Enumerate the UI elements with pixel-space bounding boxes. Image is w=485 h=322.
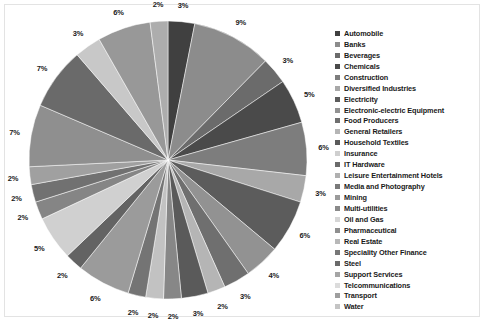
legend-swatch-icon	[335, 184, 340, 189]
pie-slice-percentage-label: 2%	[168, 311, 178, 320]
legend-item-label: Support Services	[344, 270, 402, 279]
legend-swatch-icon	[335, 86, 340, 91]
legend-item[interactable]: Water	[335, 301, 479, 312]
legend-swatch-icon	[335, 75, 340, 80]
pie-slice-percentage-label: 7%	[37, 63, 47, 72]
legend-swatch-icon	[335, 42, 340, 47]
legend-item[interactable]: Mining	[335, 192, 479, 203]
legend-item[interactable]: Insurance	[335, 148, 479, 159]
legend-item[interactable]: Diversified Industries	[335, 83, 479, 94]
legend-swatch-icon	[335, 195, 340, 200]
pie-slice-percentage-label: 3%	[240, 291, 250, 300]
legend-item-label: Telcommunications	[344, 281, 410, 290]
pie-slice-percentage-label: 5%	[34, 244, 44, 253]
legend-item[interactable]: Real Estate	[335, 236, 479, 247]
legend-item[interactable]: Construction	[335, 72, 479, 83]
legend-item-label: Household Textiles	[344, 138, 409, 147]
legend-item-label: Electronic-electric Equipment	[344, 106, 444, 115]
legend-item-label: Steel	[344, 259, 361, 268]
pie-slice-percentage-label: 9%	[236, 18, 246, 27]
legend-item[interactable]: General Retailers	[335, 126, 479, 137]
pie-slice-percentage-label: 2%	[153, 0, 163, 9]
legend-item[interactable]: Steel	[335, 258, 479, 269]
legend-item-label: Construction	[344, 73, 388, 82]
legend-swatch-icon	[335, 140, 340, 145]
legend-swatch-icon	[335, 206, 340, 211]
legend-item[interactable]: IT Hardware	[335, 159, 479, 170]
legend-item-label: Real Estate	[344, 237, 382, 246]
legend-item-label: Chemicals	[344, 62, 380, 71]
legend-item-label: Diversified Industries	[344, 84, 416, 93]
pie-slice-percentage-label: 6%	[90, 294, 100, 303]
pie-slice-percentage-label: 6%	[113, 8, 123, 17]
legend-swatch-icon	[335, 129, 340, 134]
legend-item-label: Banks	[344, 40, 365, 49]
legend-item-label: Speciality Other Finance	[344, 248, 427, 257]
pie-slice-percentage-label: 3%	[193, 309, 203, 318]
legend-swatch-icon	[335, 272, 340, 277]
legend-item-label: Mining	[344, 193, 367, 202]
legend-item[interactable]: Support Services	[335, 269, 479, 280]
legend-swatch-icon	[335, 64, 340, 69]
pie-slice-percentage-label: 3%	[178, 0, 188, 9]
legend-item-label: Pharmaceutical	[344, 226, 397, 235]
legend-item[interactable]: Media and Photography	[335, 181, 479, 192]
legend-item-label: Transport	[344, 291, 377, 300]
legend-item[interactable]: Banks	[335, 39, 479, 50]
legend-swatch-icon	[335, 228, 340, 233]
legend-swatch-icon	[335, 97, 340, 102]
legend-item-label: Automobile	[344, 29, 383, 38]
legend-item-label: Water	[344, 302, 364, 311]
legend-item-label: Insurance	[344, 149, 378, 158]
pie-slice-percentage-label: 6%	[318, 143, 328, 152]
pie-slice-percentage-label: 2%	[148, 311, 158, 320]
pie-slice-percentage-label: 6%	[300, 231, 310, 240]
legend-item[interactable]: Automobile	[335, 28, 479, 39]
legend-item[interactable]: Speciality Other Finance	[335, 247, 479, 258]
chart-frame: 3%9%3%5%6%3%6%4%3%2%3%2%2%2%6%2%5%2%2%2%…	[4, 4, 480, 317]
pie-slice-percentage-label: 3%	[282, 55, 292, 64]
legend-item-label: IT Hardware	[344, 160, 385, 169]
legend-item[interactable]: Electronic-electric Equipment	[335, 105, 479, 116]
legend-swatch-icon	[335, 173, 340, 178]
legend-item[interactable]: Household Textiles	[335, 137, 479, 148]
pie-chart-plot-area: 3%9%3%5%6%3%6%4%3%2%3%2%2%2%6%2%5%2%2%2%…	[5, 5, 330, 316]
pie-slice-percentage-label: 2%	[128, 308, 138, 317]
legend-swatch-icon	[335, 53, 340, 58]
legend-swatch-icon	[335, 304, 340, 309]
legend-item-label: Leisure Entertainment Hotels	[344, 171, 443, 180]
legend-swatch-icon	[335, 293, 340, 298]
pie-slice-percentage-label: 3%	[315, 188, 325, 197]
legend-item[interactable]: Telcommunications	[335, 280, 479, 291]
legend-item[interactable]: Electricity	[335, 94, 479, 105]
legend-item-label: Oil and Gas	[344, 215, 383, 224]
pie-chart	[5, 5, 330, 316]
pie-slice-percentage-label: 7%	[9, 128, 19, 137]
legend-swatch-icon	[335, 217, 340, 222]
legend-item-label: Media and Photography	[344, 182, 425, 191]
legend-item[interactable]: Multi-utilities	[335, 203, 479, 214]
pie-slice-percentage-label: 4%	[269, 270, 279, 279]
legend-item[interactable]: Chemicals	[335, 61, 479, 72]
pie-slice-percentage-label: 5%	[304, 89, 314, 98]
pie-slice-percentage-label: 2%	[17, 212, 27, 221]
pie-slice-percentage-label: 2%	[8, 173, 18, 182]
legend-swatch-icon	[335, 31, 340, 36]
legend-item-label: Electricity	[344, 95, 378, 104]
legend-item[interactable]: Transport	[335, 291, 479, 302]
legend-item[interactable]: Food Producers	[335, 116, 479, 127]
legend-item[interactable]: Leisure Entertainment Hotels	[335, 170, 479, 181]
legend-swatch-icon	[335, 283, 340, 288]
legend-item[interactable]: Beverages	[335, 50, 479, 61]
legend-swatch-icon	[335, 162, 340, 167]
legend-swatch-icon	[335, 239, 340, 244]
legend-item-label: General Retailers	[344, 127, 402, 136]
pie-slice-percentage-label: 3%	[73, 28, 83, 37]
pie-slice-percentage-label: 2%	[11, 193, 21, 202]
legend-item[interactable]: Pharmaceutical	[335, 225, 479, 236]
legend-item-label: Multi-utilities	[344, 204, 388, 213]
legend-item[interactable]: Oil and Gas	[335, 214, 479, 225]
legend-item-label: Beverages	[344, 51, 380, 60]
legend-swatch-icon	[335, 151, 340, 156]
pie-slice-percentage-label: 2%	[57, 270, 67, 279]
